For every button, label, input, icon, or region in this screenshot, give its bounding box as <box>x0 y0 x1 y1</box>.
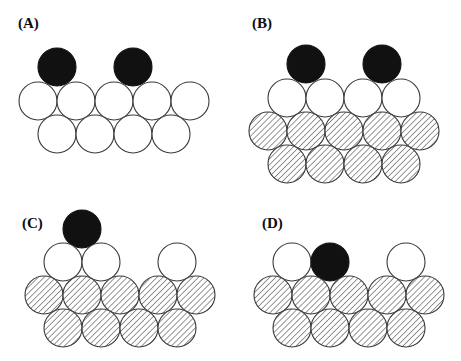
panel-b-surface-row-1 <box>268 79 420 117</box>
surface-sphere <box>268 79 306 117</box>
surface-sphere <box>38 115 76 153</box>
substrate-sphere <box>401 112 439 150</box>
substrate-sphere <box>368 276 406 314</box>
substrate-sphere <box>406 276 444 314</box>
panel-label-d: (D) <box>262 216 283 231</box>
panel-label-c: (C) <box>22 216 43 231</box>
surface-sphere <box>306 79 344 117</box>
sphere-model-figure <box>0 0 461 361</box>
surface-sphere <box>44 243 82 281</box>
surface-sphere <box>382 79 420 117</box>
surface-sphere <box>344 79 382 117</box>
panel-c <box>25 210 215 347</box>
surface-sphere <box>273 243 311 281</box>
substrate-sphere <box>330 276 368 314</box>
panel-label-b: (B) <box>252 16 272 31</box>
substrate-sphere <box>249 112 287 150</box>
panel-c-adatom-row <box>63 210 101 248</box>
substrate-sphere <box>325 112 363 150</box>
panel-a-surface-row-1 <box>19 82 209 120</box>
panel-d-surface-row-1 <box>273 243 425 281</box>
substrate-sphere <box>25 276 63 314</box>
panel-b-substrate-row-1 <box>249 112 439 150</box>
substrate-sphere <box>363 112 401 150</box>
substrate-sphere <box>268 145 306 183</box>
panel-b <box>249 45 439 183</box>
panel-d <box>254 243 444 347</box>
substrate-sphere <box>63 276 101 314</box>
surface-sphere <box>387 243 425 281</box>
surface-sphere <box>19 82 57 120</box>
substrate-sphere <box>311 309 349 347</box>
surface-sphere <box>57 82 95 120</box>
substrate-sphere <box>82 309 120 347</box>
panel-c-substrate-row-1 <box>25 276 215 314</box>
panel-b-substrate-row-2 <box>268 145 420 183</box>
substrate-sphere <box>306 145 344 183</box>
surface-sphere <box>76 115 114 153</box>
panel-a-surface-row-2 <box>38 115 190 153</box>
panel-d-substrate-row-2 <box>273 309 425 347</box>
surface-sphere <box>133 82 171 120</box>
substrate-sphere <box>292 276 330 314</box>
adatom-sphere <box>63 210 101 248</box>
substrate-sphere <box>387 309 425 347</box>
panel-a-adatom-row <box>38 48 152 86</box>
substrate-sphere <box>349 309 387 347</box>
surface-sphere <box>171 82 209 120</box>
adatom-sphere <box>311 243 349 281</box>
substrate-sphere <box>273 309 311 347</box>
substrate-sphere <box>139 276 177 314</box>
panel-d-substrate-row-1 <box>254 276 444 314</box>
substrate-sphere <box>287 112 325 150</box>
figure-root: (A) (B) (C) (D) <box>0 0 461 361</box>
substrate-sphere <box>101 276 139 314</box>
surface-sphere <box>82 243 120 281</box>
surface-sphere <box>114 115 152 153</box>
circles-layer <box>19 45 444 347</box>
adatom-sphere <box>287 45 325 83</box>
panel-b-adatom-row <box>287 45 401 83</box>
panel-c-substrate-row-2 <box>44 309 196 347</box>
surface-sphere <box>152 115 190 153</box>
substrate-sphere <box>382 145 420 183</box>
panel-c-surface-row-1 <box>44 243 196 281</box>
surface-sphere <box>95 82 133 120</box>
panel-label-a: (A) <box>18 16 39 31</box>
adatom-sphere <box>38 48 76 86</box>
substrate-sphere <box>158 309 196 347</box>
substrate-sphere <box>177 276 215 314</box>
substrate-sphere <box>344 145 382 183</box>
adatom-sphere <box>363 45 401 83</box>
adatom-sphere <box>114 48 152 86</box>
substrate-sphere <box>44 309 82 347</box>
surface-sphere <box>158 243 196 281</box>
substrate-sphere <box>120 309 158 347</box>
panel-a <box>19 48 209 153</box>
substrate-sphere <box>254 276 292 314</box>
